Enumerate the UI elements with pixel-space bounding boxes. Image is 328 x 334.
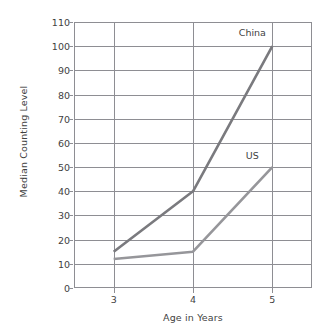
y-axis-tick-label: 30 [30, 210, 70, 221]
x-axis-title: Age in Years [74, 312, 312, 323]
y-axis-tick-mark [68, 22, 73, 23]
y-axis-tick-mark [68, 191, 73, 192]
y-axis-tick-label: 70 [30, 113, 70, 124]
y-axis-tick-labels: 0102030405060708090100110 [22, 22, 70, 288]
y-axis-tick-mark [68, 215, 73, 216]
y-axis-tick-mark [68, 143, 73, 144]
y-axis-tick-mark [68, 288, 73, 289]
y-axis-tick-label: 0 [30, 283, 70, 294]
line-chart: Median Counting Level 010203040506070809… [0, 0, 328, 334]
y-axis-tick-mark [68, 240, 73, 241]
y-axis-tick-mark [68, 95, 73, 96]
y-axis-tick-label: 90 [30, 65, 70, 76]
y-axis-tick-label: 10 [30, 258, 70, 269]
x-axis-tick-label: 3 [99, 294, 129, 305]
y-axis-tick-mark [68, 70, 73, 71]
y-axis-tick-label: 20 [30, 234, 70, 245]
x-axis-tick-label: 4 [178, 294, 208, 305]
series-lines [74, 22, 312, 288]
y-axis-tick-mark [68, 119, 73, 120]
y-axis-tick-label: 80 [30, 89, 70, 100]
x-axis-tick-mark [114, 288, 115, 293]
y-axis-tick-label: 50 [30, 162, 70, 173]
y-axis-tick-label: 110 [30, 17, 70, 28]
series-label-china: China [239, 26, 266, 37]
series-line-us [114, 167, 273, 259]
y-axis-tick-label: 60 [30, 137, 70, 148]
x-axis-tick-mark [272, 288, 273, 293]
x-axis-tick-mark [193, 288, 194, 293]
y-axis-tick-mark [68, 167, 73, 168]
y-axis-tick-label: 100 [30, 41, 70, 52]
y-axis-tick-mark [68, 264, 73, 265]
x-axis-tick-label: 5 [257, 294, 287, 305]
y-axis-tick-mark [68, 46, 73, 47]
plot-area [74, 22, 312, 288]
y-axis-tick-label: 40 [30, 186, 70, 197]
series-label-us: US [246, 150, 259, 161]
